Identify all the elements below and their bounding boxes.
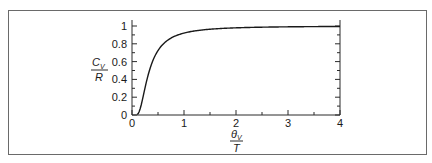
y-tick-label: 0.6	[112, 56, 127, 68]
ticks: 00.20.40.60.8101234	[112, 20, 343, 129]
x-tick-label: 0	[129, 117, 135, 129]
y-tick-label: 0.8	[112, 38, 127, 50]
y-label-numerator-sub: V	[100, 63, 106, 70]
axes	[132, 20, 340, 115]
y-tick-label: 0	[121, 109, 127, 121]
y-tick-label: 1	[121, 20, 127, 32]
x-tick-label: 4	[337, 117, 343, 129]
axis-labels: C V R θ V T	[91, 56, 243, 154]
heat-capacity-chart: 00.20.40.60.8101234 C V R θ V T	[0, 0, 432, 163]
x-tick-label: 1	[181, 117, 187, 129]
y-label-denominator: R	[95, 71, 103, 83]
x-tick-label: 3	[285, 117, 291, 129]
y-label-numerator: C	[92, 56, 100, 68]
x-label-numerator-sub: V	[237, 134, 243, 141]
y-tick-label: 0.4	[112, 73, 127, 85]
series-group	[137, 26, 340, 114]
x-label-denominator: T	[233, 142, 241, 154]
y-tick-label: 0.2	[112, 91, 127, 103]
series-line	[137, 26, 340, 114]
